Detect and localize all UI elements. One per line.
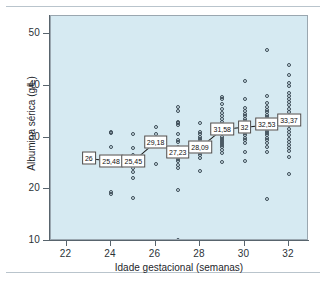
data-point: [243, 159, 247, 163]
y-axis-tick: [43, 188, 49, 189]
mean-value-label: 25,45: [122, 155, 146, 168]
y-axis-title: Albumina sérica (g/L): [26, 14, 37, 234]
mean-value-label: 29,18: [144, 135, 168, 148]
y-axis-line: [49, 15, 50, 241]
data-point: [287, 149, 291, 153]
data-point: [131, 176, 135, 180]
data-point: [265, 197, 269, 201]
mean-value-label: 31,58: [210, 123, 234, 136]
data-point: [265, 150, 269, 154]
data-point: [220, 160, 224, 164]
mean-value-label: 32: [238, 121, 252, 134]
data-point: [131, 170, 135, 174]
data-point: [109, 192, 113, 196]
x-axis-tick: [155, 241, 156, 246]
x-axis-tick: [66, 241, 67, 246]
x-axis-tick-label: 32: [273, 248, 303, 259]
data-point: [176, 188, 180, 192]
data-point: [287, 73, 291, 77]
page-rule-top: [6, 6, 320, 7]
data-point: [287, 84, 291, 88]
mean-value-label: 27,23: [166, 145, 190, 158]
data-point: [131, 132, 135, 136]
y-axis-tick: [43, 240, 49, 241]
data-point: [154, 162, 158, 166]
data-point: [198, 169, 202, 173]
data-point: [220, 97, 224, 101]
data-point: [131, 146, 135, 150]
data-point: [154, 125, 158, 129]
figure-scatter-albumin-vs-gestational-age: 2625,4825,4529,1827,2328,0931,583232,533…: [0, 0, 326, 281]
data-point: [287, 172, 291, 176]
data-point: [109, 145, 113, 149]
data-point: [265, 48, 269, 52]
data-point: [176, 123, 180, 127]
data-point: [265, 145, 269, 149]
data-point: [243, 97, 247, 101]
y-axis-tick-label: 10: [0, 234, 40, 245]
y-axis-tick: [43, 33, 49, 34]
data-point: [287, 155, 291, 159]
x-axis-tick: [199, 241, 200, 246]
data-point: [176, 132, 180, 136]
data-point: [109, 131, 113, 135]
plot-area: 2625,4825,4529,1827,2328,0931,583232,533…: [50, 15, 308, 240]
y-axis-tick: [43, 137, 49, 138]
x-axis-tick-label: 22: [51, 248, 81, 259]
x-axis-title: Idade gestacional (semanas): [50, 262, 308, 273]
data-point: [176, 140, 180, 144]
data-point: [287, 63, 291, 67]
data-point: [220, 151, 224, 155]
mean-value-label: 26: [82, 152, 96, 165]
x-axis-tick-label: 26: [140, 248, 170, 259]
x-axis-tick: [288, 241, 289, 246]
y-axis-tick: [43, 85, 49, 86]
data-point: [243, 141, 247, 145]
x-axis-tick-label: 28: [184, 248, 214, 259]
data-point: [176, 109, 180, 113]
x-axis-tick: [110, 241, 111, 246]
x-axis-tick-label: 24: [95, 248, 125, 259]
mean-value-label: 32,53: [255, 118, 279, 131]
x-axis-tick-label: 30: [229, 248, 259, 259]
data-point: [265, 94, 269, 98]
data-point: [243, 150, 247, 154]
mean-value-label: 33,37: [277, 114, 301, 127]
x-axis-line: [49, 240, 309, 241]
data-point: [131, 196, 135, 200]
data-point: [220, 102, 224, 106]
data-point: [243, 79, 247, 83]
data-point: [220, 107, 224, 111]
data-point: [176, 105, 180, 109]
data-point: [198, 121, 202, 125]
mean-value-label: 28,09: [188, 141, 212, 154]
x-axis-tick: [244, 241, 245, 246]
mean-value-label: 25,48: [99, 154, 123, 167]
data-point: [198, 156, 202, 160]
data-point: [176, 166, 180, 170]
